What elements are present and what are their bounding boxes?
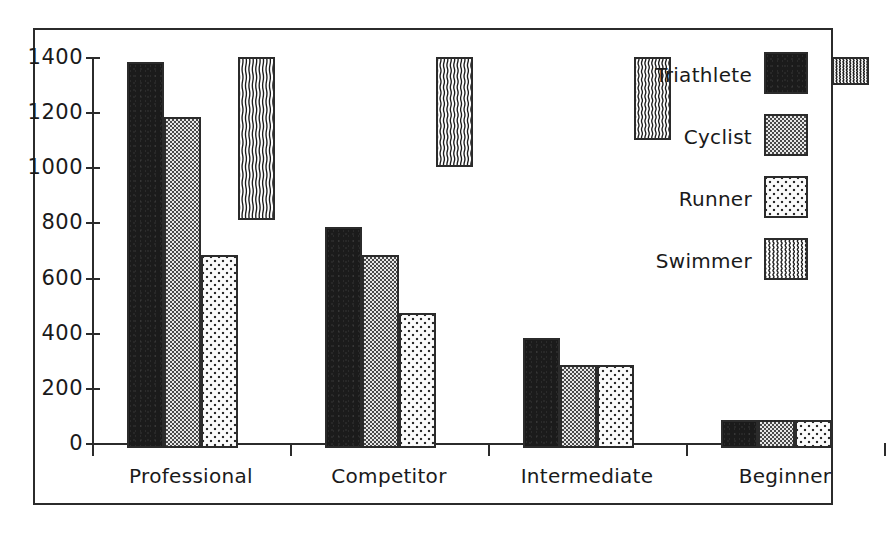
x-axis-tick-mark bbox=[686, 443, 688, 456]
x-axis-label-beginner: Beginner bbox=[686, 464, 884, 488]
bar-competitor-runner bbox=[399, 313, 436, 448]
legend-item-runner: Runner bbox=[648, 176, 808, 238]
bar-beginner-triathlete bbox=[721, 420, 758, 448]
y-axis-tick-mark bbox=[86, 278, 100, 280]
bar-competitor-swimmer bbox=[436, 57, 473, 167]
legend-swatch-runner bbox=[764, 176, 808, 218]
bar-beginner-runner bbox=[795, 420, 832, 448]
legend-label-triathlete: Triathlete bbox=[655, 63, 752, 87]
x-axis-tick-mark bbox=[92, 443, 94, 456]
legend-swatch-cyclist bbox=[764, 114, 808, 156]
bar-professional-cyclist bbox=[164, 117, 201, 448]
legend-swatch-swimmer bbox=[764, 238, 808, 280]
y-axis-tick-mark bbox=[86, 57, 100, 59]
y-axis-tick-mark bbox=[86, 222, 100, 224]
legend-label-swimmer: Swimmer bbox=[656, 249, 752, 273]
bar-professional-runner bbox=[201, 255, 238, 448]
bar-beginner-swimmer bbox=[832, 57, 869, 85]
bar-competitor-triathlete bbox=[325, 227, 362, 448]
y-axis-tick-label: 600 bbox=[41, 266, 83, 290]
x-axis-tick-mark bbox=[488, 443, 490, 456]
y-axis-tick-label: 0 bbox=[69, 431, 83, 455]
bar-intermediate-cyclist bbox=[560, 365, 597, 448]
y-axis-tick-label: 1200 bbox=[28, 100, 83, 124]
legend-swatch-triathlete bbox=[764, 52, 808, 94]
bar-professional-triathlete bbox=[127, 62, 164, 448]
y-axis-tick-label: 400 bbox=[41, 321, 83, 345]
legend-item-triathlete: Triathlete bbox=[648, 52, 808, 114]
y-axis-tick-mark bbox=[86, 167, 100, 169]
bar-professional-swimmer bbox=[238, 57, 275, 220]
y-axis-line bbox=[92, 57, 94, 443]
y-axis-tick-label: 1400 bbox=[28, 45, 83, 69]
bar-intermediate-triathlete bbox=[523, 338, 560, 448]
legend-label-cyclist: Cyclist bbox=[684, 125, 752, 149]
bar-competitor-cyclist bbox=[362, 255, 399, 448]
x-axis-label-competitor: Competitor bbox=[290, 464, 488, 488]
x-axis-label-intermediate: Intermediate bbox=[488, 464, 686, 488]
y-axis-tick-label: 800 bbox=[41, 210, 83, 234]
y-axis-tick-label: 1000 bbox=[28, 155, 83, 179]
x-axis-tick-mark bbox=[290, 443, 292, 456]
y-axis-tick-mark bbox=[86, 333, 100, 335]
x-axis-label-professional: Professional bbox=[92, 464, 290, 488]
legend-item-swimmer: Swimmer bbox=[648, 238, 808, 300]
legend-item-cyclist: Cyclist bbox=[648, 114, 808, 176]
bar-group-professional bbox=[127, 57, 275, 448]
y-axis-tick-mark bbox=[86, 388, 100, 390]
bar-intermediate-runner bbox=[597, 365, 634, 448]
bar-beginner-cyclist bbox=[758, 420, 795, 448]
bar-group-competitor bbox=[325, 57, 473, 448]
chart-legend: TriathleteCyclistRunnerSwimmer bbox=[648, 52, 808, 300]
legend-label-runner: Runner bbox=[679, 187, 752, 211]
y-axis-tick-mark bbox=[86, 112, 100, 114]
y-axis-tick-label: 200 bbox=[41, 376, 83, 400]
